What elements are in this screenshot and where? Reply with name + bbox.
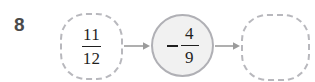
arrow-right-icon [215,40,240,52]
operator-fraction-node: 4 9 [151,14,214,77]
fraction-bar [181,45,199,46]
input-fraction-expression: 11 12 [82,25,102,68]
arrow-right-icon [124,40,150,52]
minus-sign-icon [167,45,178,47]
question-number: 8 [14,12,38,38]
operator-fraction-expression: 4 9 [167,24,199,67]
fraction-bar [82,46,102,47]
fraction-denominator: 9 [184,48,195,67]
fraction-numerator: 11 [82,25,101,44]
fraction-denominator: 12 [82,49,102,68]
fraction: 4 9 [181,24,199,67]
fraction: 11 12 [82,25,102,68]
answer-blank-node[interactable] [241,14,310,81]
problem-row: 8 11 12 4 9 [0,0,315,82]
fraction-numerator: 4 [184,24,195,43]
input-fraction-node: 11 12 [60,13,123,80]
